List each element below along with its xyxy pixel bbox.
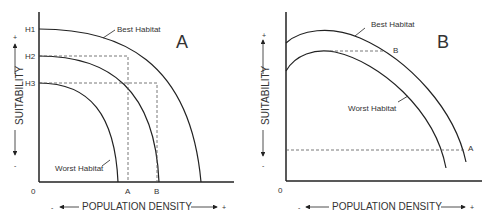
- y-plus: +: [13, 34, 17, 41]
- y-minus: -: [262, 162, 265, 169]
- panel-a: Best Habitat Worst Habitat A H1 H2 H3 A …: [13, 12, 234, 212]
- best-habitat-pointer: [103, 30, 115, 38]
- x-plus: +: [222, 204, 226, 211]
- best-habitat-pointer: [355, 28, 365, 36]
- point-b-label: B: [393, 46, 398, 55]
- svg-text:SUITABILITY: SUITABILITY: [260, 65, 271, 125]
- worst-habitat-pointer: [398, 96, 408, 102]
- worst-habitat-label: Worst Habitat: [55, 164, 104, 173]
- y-minus: -: [14, 162, 17, 169]
- best-habitat-label: Best Habitat: [371, 20, 415, 29]
- x-minus: -: [51, 204, 54, 211]
- svg-text:SUITABILITY: SUITABILITY: [14, 65, 25, 125]
- best-habitat-label: Best Habitat: [117, 25, 161, 34]
- point-a-label: A: [468, 144, 474, 153]
- x-tick-b: B: [154, 187, 159, 196]
- x-plus: +: [470, 204, 474, 211]
- x-axis-title: POPULATION DENSITY: [82, 201, 192, 212]
- origin-label: 0: [278, 186, 283, 195]
- panel-b: Best Habitat Worst Habitat B A B 0 SUITA…: [260, 12, 482, 212]
- habitat-diagram: Best Habitat Worst Habitat A H1 H2 H3 A …: [0, 0, 488, 219]
- origin-label: 0: [31, 187, 36, 196]
- y-axis-title: SUITABILITY: [14, 65, 25, 125]
- y-axis-title: SUITABILITY: [260, 65, 271, 125]
- x-minus: -: [298, 204, 301, 211]
- y-tick-h2: H2: [25, 52, 36, 61]
- y-tick-h1: H1: [25, 25, 36, 34]
- panel-a-title: A: [176, 32, 188, 52]
- x-tick-a: A: [125, 187, 131, 196]
- y-plus: +: [262, 32, 266, 39]
- x-axis-title: POPULATION DENSITY: [332, 201, 442, 212]
- worst-habitat-label: Worst Habitat: [348, 104, 397, 113]
- y-tick-h3: H3: [25, 79, 36, 88]
- panel-b-title: B: [437, 32, 449, 52]
